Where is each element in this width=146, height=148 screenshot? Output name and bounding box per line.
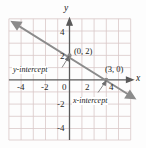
x-axis-label: x <box>136 74 140 84</box>
point-label-y-intercept: (0, 2) <box>74 47 92 56</box>
y-tick-4: 4 <box>60 28 65 37</box>
point-label-x-intercept: (3, 0) <box>105 65 123 74</box>
line-arrow-lower-right <box>126 91 135 98</box>
x-axis-arrow <box>127 77 134 82</box>
x-tick-2: 2 <box>85 83 90 92</box>
x-tick-neg4: -4 <box>17 83 25 92</box>
callout-y-intercept: y-intercept <box>12 66 48 74</box>
plotted-line <box>12 22 134 99</box>
callout-x-intercept: x-intercept <box>72 97 108 105</box>
y-axis-label: y <box>64 4 68 14</box>
y-axis-arrow <box>67 19 72 26</box>
graph-canvas <box>0 0 146 148</box>
y-tick-neg2: -2 <box>57 100 65 109</box>
y-tick-2: 2 <box>60 52 65 61</box>
y-tick-neg4: -4 <box>57 124 65 133</box>
x-tick-neg2: -2 <box>41 83 49 92</box>
x-tick-0: 0 <box>62 83 67 92</box>
axes <box>9 19 133 140</box>
line-arrow-upper-left <box>12 22 21 29</box>
coordinate-plane-figure: y x 4 2 -2 -4 -4 -2 0 2 4 (0, 2) (3, 0) … <box>0 0 146 148</box>
x-tick-4: 4 <box>109 83 114 92</box>
